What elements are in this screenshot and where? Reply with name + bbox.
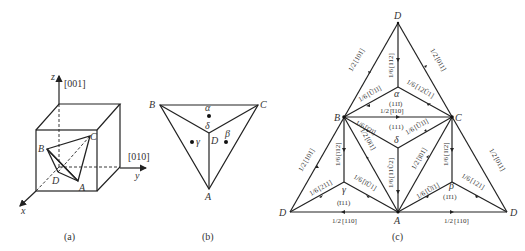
caption-c: (c) <box>392 231 403 243</box>
edge-label-C-beta: 1/6 [1ī2] <box>442 142 450 166</box>
c-vertex-A: A <box>393 215 401 226</box>
svg-text:[Ũ1ī]: [Ũ1ī] <box>413 117 430 132</box>
x-axis-label: x <box>20 205 26 216</box>
svg-text:[ī12]: [ī12] <box>334 142 342 156</box>
svg-text:[110]: [110] <box>342 217 357 225</box>
b-face-delta: δ <box>205 120 210 131</box>
caption-b: (b) <box>202 231 214 243</box>
x-axis <box>20 191 36 206</box>
svg-text:[110]: [110] <box>454 217 469 225</box>
svg-text:[1ī2]: [1ī2] <box>442 142 450 156</box>
edge-label-B-gamma: 1/6 [ī12] <box>334 142 342 166</box>
edge-label-A-gamma: 1/6 [īŨ1] <box>352 173 378 193</box>
c-vertex-B: B <box>334 112 340 123</box>
svg-text:[112]: [112] <box>387 53 395 68</box>
edge-label-DB-top: 1/2 [101] <box>347 47 367 73</box>
c-plane-beta: (1ī1) <box>443 193 457 201</box>
svg-text:1/6: 1/6 <box>442 157 450 166</box>
edge-labels: 1/2 [101] 1/2 [011] 1/6 [112] 1/6 [Ũ1ī] … <box>297 47 507 225</box>
c-plane-delta: (111) <box>389 123 404 131</box>
svg-text:1/6: 1/6 <box>387 69 395 78</box>
edge-label-C-alpha: 1/6 [12Ũ1] <box>405 78 435 100</box>
c-center-gamma: γ <box>342 184 347 195</box>
cube-vertex-A: A <box>78 182 86 193</box>
svg-text:1/2: 1/2 <box>380 107 389 115</box>
edge-label-delta-A: 1/6 [11Ũ2] <box>387 158 395 188</box>
svg-text:1/2: 1/2 <box>444 217 453 225</box>
cube-vertex-C: C <box>90 131 97 142</box>
z-direction-label: [001] <box>64 78 86 89</box>
svg-text:[011]: [011] <box>433 56 447 73</box>
cube-vertex-B: B <box>38 143 44 154</box>
c-vertex-D-left: D <box>278 207 287 218</box>
edge-label-DB-left: 1/2 [101] <box>297 147 317 173</box>
b-face-alpha: α <box>205 102 211 113</box>
c-center-alpha: α <box>394 88 400 99</box>
svg-text:[11Ũ2]: [11Ũ2] <box>387 158 395 178</box>
svg-text:[īŨ1]: [īŨ1] <box>361 178 378 193</box>
z-axis-label: z <box>50 71 55 82</box>
svg-text:1/6: 1/6 <box>387 179 395 188</box>
y-axis-label: y <box>134 170 140 181</box>
svg-text:1/6: 1/6 <box>334 157 342 166</box>
b-vertex-A: A <box>204 191 212 202</box>
edge-label-C-delta: 1/6 [Ũ1ī] <box>404 117 430 137</box>
y-direction-label: [010] <box>128 151 150 162</box>
thompson-tetrahedron-figure: z [001] [010] y x B C D A (a) B C A D α … <box>0 0 525 251</box>
b-vertex-B: B <box>149 99 155 110</box>
b-face-beta: β <box>224 128 230 139</box>
c-vertex-D-right: D <box>509 207 518 218</box>
c-center-delta: δ <box>394 134 399 145</box>
svg-text:[ī10]: [ī10] <box>390 107 404 115</box>
caption-a: (a) <box>64 231 75 243</box>
edge-label-CA: 1/2 [ī01] <box>410 147 429 171</box>
edge-label-DC-top: 1/2 [011] <box>428 47 447 73</box>
c-center-beta: β <box>448 180 454 191</box>
c-vertex-C: C <box>455 112 462 123</box>
svg-text:[101]: [101] <box>352 47 367 64</box>
svg-text:[101]: [101] <box>302 147 317 164</box>
edge-label-DC-right: 1/2 [011] <box>487 147 506 173</box>
cube-vertex-D: D <box>51 175 60 186</box>
b-vertex-C: C <box>260 99 267 110</box>
edge-label-DA-left: 1/2 [110] <box>332 217 357 225</box>
edge-arrowheads <box>315 58 483 214</box>
b-vertex-D: D <box>210 135 219 146</box>
edge-label-BC: 1/2 [ī10] <box>380 107 404 115</box>
svg-text:[121]: [121] <box>469 177 486 192</box>
svg-text:[011]: [011] <box>492 156 506 173</box>
c-vertex-D-top: D <box>393 10 402 21</box>
svg-text:1/2: 1/2 <box>332 217 341 225</box>
svg-text:[0ī1]: [0ī1] <box>363 136 377 152</box>
c-plane-gamma: (ī11) <box>337 199 351 207</box>
cube-top-face <box>36 104 120 130</box>
svg-text:[211]: [211] <box>317 178 334 192</box>
b-face-gamma: γ <box>196 136 201 147</box>
svg-text:[ī01]: [ī01] <box>415 147 429 163</box>
edge-label-DA-right: 1/2 [110] <box>444 217 469 225</box>
edge-label-D-alpha: 1/6 [112] <box>387 53 395 78</box>
